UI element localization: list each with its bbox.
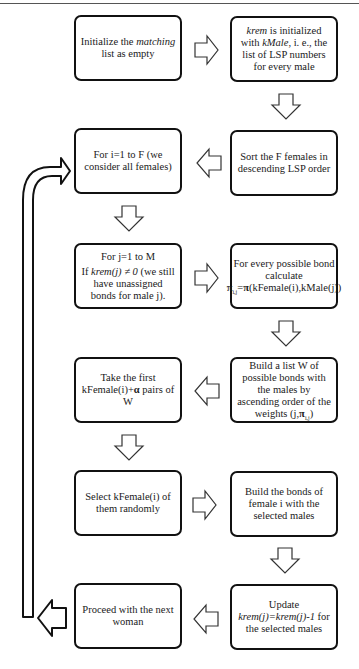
arrow-down-icon xyxy=(114,205,144,232)
box-build-list-w: Build a list W of possible bonds with th… xyxy=(230,357,338,423)
box-next-woman: Proceed with the next woman xyxy=(74,583,182,649)
box-update-krem-text: Updatekrem(j)=krem(j)-1 for the selected… xyxy=(236,599,332,635)
box-loop-males: For j=1 to MIf krem(j) ≠ 0 (we still hav… xyxy=(74,243,182,309)
box-select-random-text: Select kFemale(i) of them randomly xyxy=(80,491,176,515)
arrow-left-icon xyxy=(196,148,222,178)
loop-back-arrow-icon xyxy=(0,0,80,669)
box-init-matching-text: Initialize the matching list as empty xyxy=(81,36,175,60)
box-loop-females: For i=1 to F (we consider all females) xyxy=(74,128,182,194)
arrow-right-icon xyxy=(192,490,218,520)
box-select-random: Select kFemale(i) of them randomly xyxy=(74,470,182,536)
box-init-krem-text: krem is initialized with kMale, i. e., t… xyxy=(236,25,332,73)
box-calc-weights: For every possible bond calculate πi,j=π… xyxy=(230,243,338,309)
arrow-right-icon xyxy=(194,263,220,293)
arrow-down-icon xyxy=(271,93,301,120)
box-sort-females-text: Sort the F females in descending LSP ord… xyxy=(236,151,332,175)
box-take-first: Take the first kFemale(i)+α pairs of W xyxy=(74,357,182,423)
box-sort-females: Sort the F females in descending LSP ord… xyxy=(230,130,338,196)
arrow-right-icon xyxy=(194,35,220,65)
arrow-left-icon xyxy=(193,604,219,634)
box-build-list-w-text: Build a list W of possible bonds with th… xyxy=(236,360,332,420)
box-take-first-text: Take the first kFemale(i)+α pairs of W xyxy=(80,372,176,408)
box-loop-females-text: For i=1 to F (we consider all females) xyxy=(80,149,176,173)
arrow-down-icon xyxy=(114,434,144,461)
box-next-woman-text: Proceed with the next woman xyxy=(80,604,176,628)
box-calc-weights-text: For every possible bond calculate πi,j=π… xyxy=(227,258,342,294)
box-init-krem: krem is initialized with kMale, i. e., t… xyxy=(230,16,338,82)
arrow-down-icon xyxy=(271,320,301,347)
box-build-bonds-text: Build the bonds of female i with the sel… xyxy=(236,486,332,522)
box-update-krem: Updatekrem(j)=krem(j)-1 for the selected… xyxy=(230,584,338,650)
box-loop-males-text: For j=1 to MIf krem(j) ≠ 0 (we still hav… xyxy=(80,251,176,302)
box-build-bonds: Build the bonds of female i with the sel… xyxy=(230,471,338,537)
arrow-down-icon xyxy=(270,547,300,574)
box-init-matching: Initialize the matching list as empty xyxy=(74,15,182,81)
arrow-left-icon xyxy=(194,376,220,406)
